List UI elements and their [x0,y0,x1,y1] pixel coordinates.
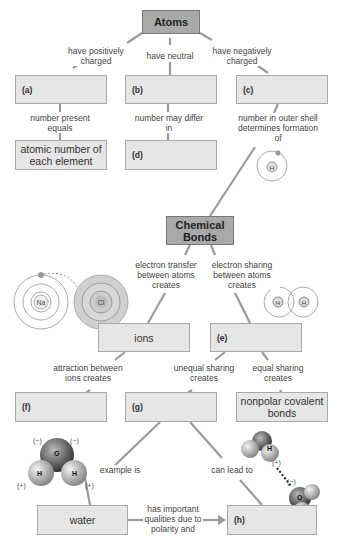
charge-neg-bond: (−) [287,478,296,485]
node-d: (d) [125,140,217,170]
link-number-may: number may differ in [133,113,205,133]
node-atomic-number: atomic number of each element [15,140,107,170]
link-attraction: attraction between ions creates [48,363,128,383]
link-electron-transfer: electron transfer between atoms creates [128,260,204,290]
node-b: (b) [125,75,217,104]
node-nonpolar: nonpolar covalent bonds [236,392,328,422]
link-electron-sharing: electron sharing between atoms creates [204,260,280,290]
hydrogen-atom-illustration: H [257,151,287,182]
link-equal: equal sharing creates [246,363,310,383]
water-molecule-illustration [28,438,87,486]
label-h-right: H [72,470,77,477]
charge-neg-left: (−) [33,437,42,444]
h2-molecule-illustration [264,287,318,317]
label-o: O [54,450,59,457]
chlorine-atom-illustration: Cl [74,275,128,329]
label-h-bond: H [267,445,272,452]
svg-text:H: H [270,165,274,171]
svg-text:Na: Na [37,299,46,306]
label-o-bond: O [297,494,302,501]
link-neutral: have neutral [140,51,200,61]
node-water: water [37,505,128,535]
node-g: (g) [125,392,217,422]
node-chemical-bonds: Chemical Bonds [166,216,234,245]
link-can-lead: can lead to [207,465,257,475]
svg-text:Cl: Cl [98,299,105,306]
label-h-left: H [37,470,42,477]
charge-neg-right: (−) [70,437,79,444]
node-a: (a) [15,75,107,104]
link-has-important: has important qualities due to polarity … [143,504,203,534]
link-outer-shell: number in outer shell determines formati… [236,113,320,143]
svg-text:H: H [276,300,280,306]
node-f: (f) [15,392,107,422]
charge-pos-left: (+) [17,482,26,489]
charge-pos-right: (+) [85,482,94,489]
link-unequal: unequal sharing creates [172,363,236,383]
node-e: (e) [210,323,302,352]
link-pos-charged: have positively charged [62,46,130,66]
link-number-present: number present equals [24,113,96,133]
node-c: (c) [236,75,328,104]
node-atoms: Atoms [142,10,200,34]
node-h: (h) [227,505,317,535]
link-example-is: example is [97,465,143,475]
charge-pos-bond: (+) [272,459,281,466]
svg-text:H: H [302,300,306,306]
node-ions: ions [98,323,190,352]
link-neg-charged: have negatively charged [208,46,276,66]
